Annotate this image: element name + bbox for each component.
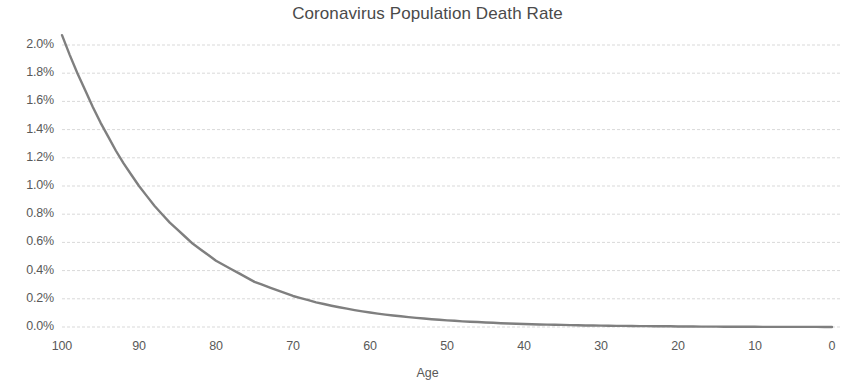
- x-axis-title: Age: [0, 366, 855, 380]
- y-axis-tick-label: 1.8%: [10, 65, 54, 79]
- x-axis-tick-label: 30: [581, 339, 621, 353]
- plot-area: [0, 0, 855, 389]
- x-axis-tick-label: 0: [812, 339, 852, 353]
- x-axis-tick-label: 90: [119, 339, 159, 353]
- chart-container: Coronavirus Population Death Rate 2.0%1.…: [0, 0, 855, 389]
- y-axis-tick-label: 0.0%: [10, 319, 54, 333]
- y-axis-tick-label: 1.2%: [10, 150, 54, 164]
- y-axis-tick-label: 0.4%: [10, 263, 54, 277]
- y-axis-tick-label: 1.4%: [10, 122, 54, 136]
- y-axis-tick-label: 0.2%: [10, 291, 54, 305]
- y-axis-tick-label: 0.6%: [10, 234, 54, 248]
- x-axis-tick-label: 20: [658, 339, 698, 353]
- x-axis-tick-label: 70: [273, 339, 313, 353]
- x-axis-tick-label: 60: [350, 339, 390, 353]
- gridlines: [62, 45, 840, 327]
- x-axis-tick-label: 80: [196, 339, 236, 353]
- y-axis-tick-label: 1.6%: [10, 93, 54, 107]
- x-axis-tick-label: 100: [42, 339, 82, 353]
- x-axis-tick-label: 50: [427, 339, 467, 353]
- x-axis-tick-label: 10: [735, 339, 775, 353]
- x-axis-tick-label: 40: [504, 339, 544, 353]
- y-axis-tick-label: 0.8%: [10, 206, 54, 220]
- y-axis-tick-label: 1.0%: [10, 178, 54, 192]
- death-rate-line: [62, 35, 832, 327]
- y-axis-tick-label: 2.0%: [10, 37, 54, 51]
